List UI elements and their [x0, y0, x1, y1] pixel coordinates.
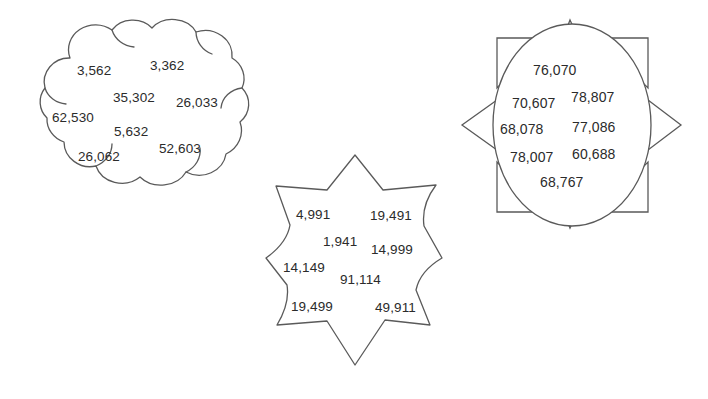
cloud-number: 62,530: [52, 111, 94, 125]
sun-number: 78,807: [571, 90, 614, 104]
cloud-number: 26,033: [176, 96, 218, 110]
star-number: 14,999: [371, 243, 413, 257]
sun-number: 78,007: [510, 150, 553, 164]
star-number: 4,991: [296, 208, 330, 222]
cloud-number: 35,302: [113, 91, 155, 105]
sun-number: 76,070: [533, 63, 576, 77]
cloud-number: 26,062: [78, 150, 120, 164]
drawing-canvas: 3,5623,36235,30226,03362,5305,63252,6032…: [0, 0, 708, 399]
star-number: 1,941: [323, 235, 357, 249]
star-number: 14,149: [283, 261, 325, 275]
sun-ray-right: [648, 100, 681, 150]
cloud-number: 3,362: [150, 59, 184, 73]
star-number: 19,491: [370, 209, 412, 223]
sun-number: 60,688: [572, 147, 615, 161]
cloud-number: 3,562: [77, 64, 111, 78]
sun-ray-left: [462, 100, 497, 150]
shape-outlines-layer: [0, 0, 708, 399]
star-number: 19,499: [291, 300, 333, 314]
sun-number: 77,086: [572, 120, 615, 134]
sun-number: 70,607: [512, 96, 555, 110]
cloud-number: 52,603: [159, 142, 201, 156]
star-number: 91,114: [340, 273, 381, 287]
sun-number: 68,767: [540, 175, 583, 189]
sun-number: 68,078: [500, 122, 543, 136]
star-number: 49,911: [375, 301, 416, 315]
cloud-number: 5,632: [114, 125, 148, 139]
